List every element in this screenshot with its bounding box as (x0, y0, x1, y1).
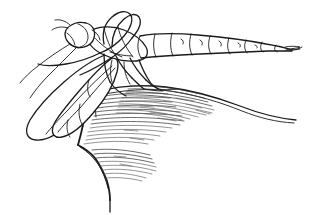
abdomen-segment-joint (209, 36, 211, 54)
rock (78, 86, 296, 212)
thorax (87, 27, 147, 61)
abdomen (138, 33, 302, 58)
rock-hatching-crest (116, 86, 214, 120)
dragonfly-line-drawing: Dragonfly perched on rock edge (0, 0, 318, 215)
abdomen-segment-joint (245, 40, 247, 53)
abdomen-dorsal-edge (140, 34, 292, 50)
abdomen-segment-joint (154, 34, 156, 57)
leg-front-extended (20, 44, 70, 83)
antenna-right (55, 20, 70, 25)
rock-texture-flecks (114, 98, 210, 166)
leg-mid-left-tibia (132, 78, 144, 89)
rock-hatching-lower (92, 149, 156, 181)
thorax-body (87, 27, 147, 61)
abdomen-ventral-edge (141, 51, 292, 58)
illustration-canvas: Dragonfly perched on rock edge (0, 0, 318, 215)
wings (27, 54, 118, 140)
abdomen-segment-joint (171, 33, 173, 56)
abdomen-segment-joint (190, 34, 192, 55)
abdomen-segment-joint (228, 38, 230, 54)
